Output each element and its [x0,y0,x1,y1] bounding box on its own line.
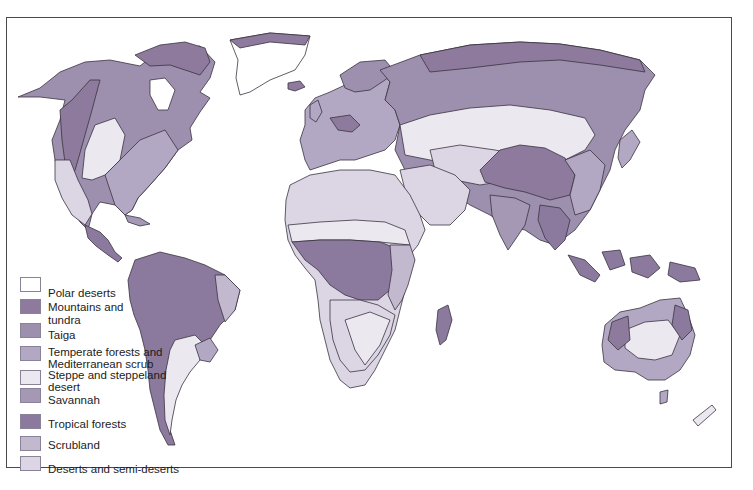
legend-item-polar-deserts: Polar deserts [12,277,182,299]
legend-item-savannah: Savannah [12,394,182,414]
swatch-taiga [20,323,41,338]
legend-label-scrubland: Scrubland [48,439,100,451]
legend-item-scrubland: Scrubland [12,434,182,454]
legend-label-polar-deserts: Polar deserts [48,287,116,299]
map-legend: Polar deserts Mountains and tundra Taiga… [12,277,182,474]
legend-label-taiga: Taiga [48,329,76,341]
legend-label-steppe-line1: Steppe and steppeland [48,369,166,381]
swatch-savannah [20,388,41,403]
legend-item-temperate: Temperate forests and Mediterranean scru… [12,344,182,368]
legend-label-mountains-line2: tundra [48,314,81,326]
swatch-temperate [20,346,41,361]
legend-label-steppe-line2: desert [48,381,80,393]
legend-label-temperate-line1: Temperate forests and [48,346,162,358]
legend-label-deserts: Deserts and semi-deserts [48,463,179,475]
legend-item-deserts: Deserts and semi-deserts [12,454,182,474]
legend-label-mountains-line1: Mountains and [48,301,123,313]
swatch-mountains-tundra [20,299,41,314]
legend-label-savannah: Savannah [48,394,100,406]
legend-label-tropical: Tropical forests [48,418,126,430]
swatch-scrubland [20,436,41,451]
legend-item-tropical: Tropical forests [12,414,182,434]
swatch-deserts [20,456,41,471]
legend-item-taiga: Taiga [12,329,182,344]
swatch-tropical [20,414,41,429]
swatch-polar-deserts [20,277,41,292]
swatch-steppe [20,370,41,385]
